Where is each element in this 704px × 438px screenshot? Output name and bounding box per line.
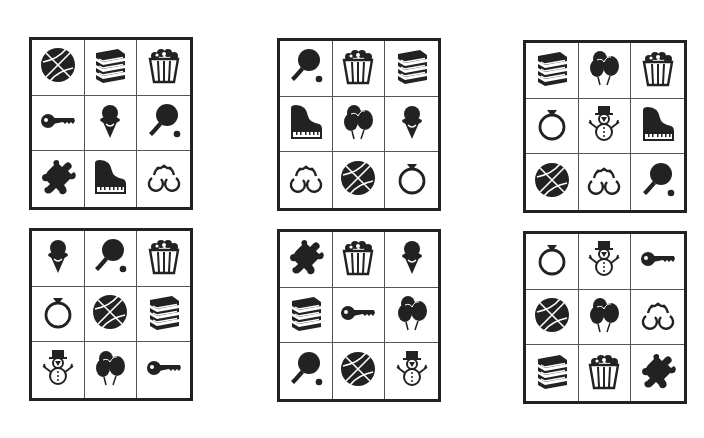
key-icon (38, 101, 78, 145)
icon-grid-5[interactable]: puzzle-piecepopcornice-creambookskeyball… (277, 229, 441, 402)
grid-cell[interactable]: popcorn (137, 40, 190, 96)
basketball-icon (38, 45, 78, 89)
snowman-icon (392, 349, 432, 393)
books-icon (532, 48, 572, 92)
snowman-icon (584, 104, 624, 148)
grid-cell[interactable]: basketball (526, 154, 579, 210)
grid-cell[interactable]: popcorn (333, 41, 386, 97)
grid-cell[interactable]: books (137, 287, 190, 343)
ping-pong-icon (90, 236, 130, 280)
ice-cream-icon (90, 101, 130, 145)
balloons-icon (584, 48, 624, 92)
grid-cell[interactable]: handcuffs (137, 151, 190, 207)
grid-cell[interactable]: snowman (579, 234, 632, 290)
grid-cell[interactable]: popcorn (631, 43, 684, 99)
grid-cell[interactable]: balloons (579, 43, 632, 99)
grid-cell[interactable]: piano (631, 99, 684, 155)
ping-pong-icon (144, 101, 184, 145)
handcuffs-icon (638, 295, 678, 339)
grid-cell[interactable]: key (32, 96, 85, 152)
grid-cell[interactable]: balloons (579, 290, 632, 346)
ping-pong-icon (638, 160, 678, 204)
key-icon (638, 239, 678, 283)
icon-grid-3[interactable]: booksballoonspopcornringsnowmanpianobask… (523, 40, 687, 213)
grid-cell[interactable]: balloons (333, 97, 386, 153)
grid-cell[interactable]: piano (280, 97, 333, 153)
grid-cell[interactable]: key (137, 342, 190, 398)
grid-cell[interactable]: ice-cream (385, 232, 438, 288)
grid-cell[interactable]: basketball (32, 40, 85, 96)
grid-cell[interactable]: ice-cream (32, 231, 85, 287)
ping-pong-icon (286, 46, 326, 90)
books-icon (286, 293, 326, 337)
grid-cell[interactable]: handcuffs (579, 154, 632, 210)
popcorn-icon (144, 45, 184, 89)
ring-icon (38, 292, 78, 336)
snowman-icon (38, 348, 78, 392)
icon-grid-6[interactable]: ringsnowmankeybasketballballoonshandcuff… (523, 231, 687, 404)
grid-cell[interactable]: ping-pong (280, 41, 333, 97)
grid-cell[interactable]: popcorn (579, 345, 632, 401)
grid-cell[interactable]: snowman (579, 99, 632, 155)
grid-cell[interactable]: puzzle-piece (32, 151, 85, 207)
grid-cell[interactable]: books (280, 288, 333, 344)
grid-cell[interactable]: ping-pong (137, 96, 190, 152)
grid-cell[interactable]: piano (85, 151, 138, 207)
grid-cell[interactable]: popcorn (137, 231, 190, 287)
grid-cell[interactable]: ring (385, 152, 438, 208)
grid-cell[interactable]: handcuffs (280, 152, 333, 208)
handcuffs-icon (144, 157, 184, 201)
snowman-icon (584, 239, 624, 283)
grid-cell[interactable]: key (631, 234, 684, 290)
balloons-icon (392, 293, 432, 337)
grid-cell[interactable]: ping-pong (85, 231, 138, 287)
ice-cream-icon (392, 102, 432, 146)
icon-grid-4[interactable]: ice-creamping-pongpopcornringbasketballb… (29, 228, 193, 401)
ring-icon (392, 158, 432, 202)
piano-icon (286, 102, 326, 146)
grid-cell[interactable]: basketball (526, 290, 579, 346)
grid-cell[interactable]: snowman (385, 343, 438, 399)
grid-cell[interactable]: ice-cream (385, 97, 438, 153)
piano-icon (90, 157, 130, 201)
grid-cell[interactable]: basketball (85, 287, 138, 343)
grid-cell[interactable]: key (333, 288, 386, 344)
grid-cell[interactable]: popcorn (333, 232, 386, 288)
grid-cell[interactable]: puzzle-piece (631, 345, 684, 401)
balloons-icon (584, 295, 624, 339)
ping-pong-icon (286, 349, 326, 393)
grid-cell[interactable]: snowman (32, 342, 85, 398)
grid-cell[interactable]: balloons (85, 342, 138, 398)
grid-cell[interactable]: ping-pong (280, 343, 333, 399)
grid-cell[interactable]: handcuffs (631, 290, 684, 346)
grid-cell[interactable]: books (85, 40, 138, 96)
grid-cell[interactable]: books (526, 345, 579, 401)
grid-cell[interactable]: books (526, 43, 579, 99)
grid-cell[interactable]: puzzle-piece (280, 232, 333, 288)
grid-cell[interactable]: ring (32, 287, 85, 343)
handcuffs-icon (584, 160, 624, 204)
grid-cell[interactable]: ring (526, 99, 579, 155)
grid-cell[interactable]: basketball (333, 152, 386, 208)
grid-cell[interactable]: basketball (333, 343, 386, 399)
books-icon (90, 45, 130, 89)
handcuffs-icon (286, 158, 326, 202)
piano-icon (638, 104, 678, 148)
ice-cream-icon (38, 236, 78, 280)
grid-cell[interactable]: ring (526, 234, 579, 290)
popcorn-icon (338, 46, 378, 90)
grid-cell[interactable]: books (385, 41, 438, 97)
popcorn-icon (638, 48, 678, 92)
puzzle-piece-icon (286, 237, 326, 281)
icon-grid-1[interactable]: basketballbookspopcornkeyice-creamping-p… (29, 37, 193, 210)
puzzle-piece-icon (38, 157, 78, 201)
ring-icon (532, 104, 572, 148)
balloons-icon (90, 348, 130, 392)
basketball-icon (338, 349, 378, 393)
books-icon (144, 292, 184, 336)
grid-cell[interactable]: ice-cream (85, 96, 138, 152)
icon-grid-2[interactable]: ping-pongpopcornbookspianoballoonsice-cr… (277, 38, 441, 211)
grid-cell[interactable]: balloons (385, 288, 438, 344)
basketball-icon (338, 158, 378, 202)
grid-cell[interactable]: ping-pong (631, 154, 684, 210)
